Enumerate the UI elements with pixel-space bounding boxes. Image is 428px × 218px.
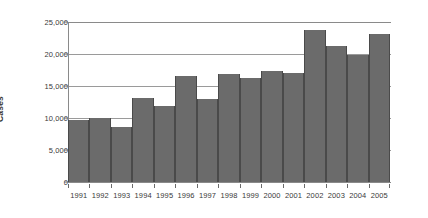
x-tick-mark xyxy=(175,184,176,188)
x-tick-mark xyxy=(304,184,305,188)
bar-cell xyxy=(240,22,261,182)
x-tick-mark xyxy=(154,184,155,188)
bar-cell xyxy=(218,22,239,182)
bar xyxy=(218,74,239,182)
x-tick-label: 1995 xyxy=(154,184,175,204)
bar-cell xyxy=(111,22,132,182)
bar-cell xyxy=(261,22,282,182)
bar xyxy=(175,76,196,182)
bar-chart: Cases 25,00020,00015,00010,0005,0000 199… xyxy=(0,0,428,218)
x-tick-label: 1999 xyxy=(240,184,261,204)
bar-cell xyxy=(197,22,218,182)
bar-cell xyxy=(283,22,304,182)
x-tick-label: 2001 xyxy=(283,184,304,204)
y-tick-label: 5,000 xyxy=(4,146,68,155)
x-tick-label: 1997 xyxy=(197,184,218,204)
x-tick-label: 2004 xyxy=(347,184,368,204)
bar xyxy=(68,120,89,182)
bar-cell xyxy=(326,22,347,182)
bar xyxy=(132,98,153,182)
y-tick-label: 25,000 xyxy=(4,18,68,27)
bar xyxy=(154,106,175,182)
bar xyxy=(197,99,218,182)
x-tick-label: 1996 xyxy=(175,184,196,204)
bar xyxy=(240,78,261,182)
bar xyxy=(283,73,304,182)
bar-cell xyxy=(347,22,368,182)
x-tick-mark xyxy=(261,184,262,188)
bar xyxy=(347,55,368,182)
bar-cell xyxy=(68,22,89,182)
bar xyxy=(326,46,347,182)
x-tick-label: 2000 xyxy=(261,184,282,204)
x-tick-label: 1994 xyxy=(132,184,153,204)
x-tick-mark xyxy=(68,184,69,188)
x-tick-mark xyxy=(132,184,133,188)
x-axis-tick-labels: 1991199219931994199519961997199819992000… xyxy=(68,184,390,204)
bar xyxy=(89,118,110,182)
x-tick-label: 1992 xyxy=(89,184,110,204)
y-tick-label: 20,000 xyxy=(4,50,68,59)
x-tick-mark xyxy=(197,184,198,188)
y-tick-label: 10,000 xyxy=(4,114,68,123)
bar xyxy=(304,30,325,182)
x-tick-mark xyxy=(347,184,348,188)
x-tick-label: 1991 xyxy=(68,184,89,204)
x-tick-label: 1998 xyxy=(218,184,239,204)
bar-cell xyxy=(154,22,175,182)
y-axis-tick-labels: 25,00020,00015,00010,0005,0000 xyxy=(0,0,68,218)
bar-cell xyxy=(369,22,390,182)
x-tick-mark xyxy=(218,184,219,188)
x-tick-mark xyxy=(389,184,390,188)
y-tick-label: 0 xyxy=(4,178,68,187)
bar xyxy=(369,34,390,182)
bar-cell xyxy=(304,22,325,182)
x-tick-mark xyxy=(89,184,90,188)
bar xyxy=(261,71,282,182)
bar xyxy=(111,127,132,182)
x-tick-mark xyxy=(111,184,112,188)
x-tick-label: 2005 xyxy=(369,184,390,204)
x-tick-mark xyxy=(326,184,327,188)
bar-cell xyxy=(89,22,110,182)
x-tick-mark xyxy=(283,184,284,188)
x-tick-mark xyxy=(369,184,370,188)
x-tick-label: 1993 xyxy=(111,184,132,204)
x-tick-mark xyxy=(240,184,241,188)
bar-series xyxy=(68,22,390,182)
x-tick-label: 2002 xyxy=(304,184,325,204)
bar-cell xyxy=(175,22,196,182)
bar-cell xyxy=(132,22,153,182)
x-tick-label: 2003 xyxy=(326,184,347,204)
y-tick-label: 15,000 xyxy=(4,82,68,91)
